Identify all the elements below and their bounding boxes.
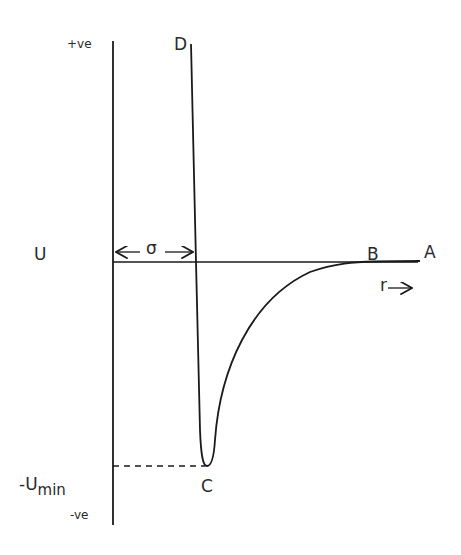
point-a-label: A <box>424 244 436 261</box>
sigma-label: σ <box>145 240 158 257</box>
u-axis-label: U <box>34 246 46 263</box>
point-b-label: B <box>367 246 379 263</box>
potential-curve <box>191 44 420 466</box>
u-min-subscript: min <box>38 481 66 499</box>
point-d-label: D <box>174 36 187 53</box>
u-min-label: -Umin <box>19 476 66 493</box>
u-min-prefix: -U <box>19 474 38 494</box>
r-axis-label: r <box>380 277 387 294</box>
positive-label: +ve <box>67 38 92 50</box>
point-c-label: C <box>201 478 213 495</box>
negative-label: -ve <box>70 509 89 521</box>
potential-energy-diagram <box>0 0 461 555</box>
